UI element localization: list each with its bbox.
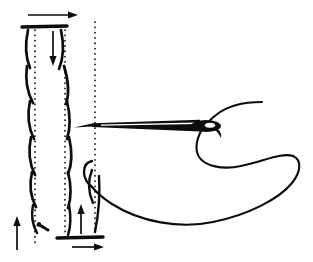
- fabric-bottom-edge: [57, 237, 103, 238]
- arrow-bottom-right-head: [94, 243, 104, 250]
- weave-stroke: [59, 30, 63, 69]
- arrow-bottom-up-head: [77, 204, 84, 214]
- needle-eye-barb: [214, 128, 221, 138]
- thread-loop-path: [92, 131, 299, 225]
- arrow-top-down: [49, 31, 56, 66]
- weave-stroke: [95, 176, 99, 232]
- stitch-diagram-figure: [0, 0, 313, 262]
- weave-stroke: [68, 205, 70, 235]
- weave-stroke: [68, 137, 72, 174]
- weave-stroke: [26, 30, 30, 68]
- needle-tip: [74, 124, 92, 128]
- arrow-top-right-head: [68, 11, 78, 18]
- fabric-guide-lines: [35, 22, 95, 246]
- arrow-bottom-up: [77, 204, 84, 234]
- fabric-top-edge-bar: [22, 26, 67, 27]
- thread-tail-dot: [37, 222, 41, 226]
- needle-eye-hole: [205, 123, 215, 128]
- thread-tail-hook: [37, 222, 48, 230]
- weave-stroke: [67, 101, 70, 139]
- fabric-top-edge: [22, 26, 67, 27]
- weave-stroke: [29, 137, 35, 175]
- arrow-bottom-left-up-head: [13, 216, 20, 226]
- thread-lower-loop: [92, 131, 299, 225]
- arrow-top-down-head: [49, 56, 56, 66]
- arrow-bottom-left-up: [13, 216, 20, 250]
- arrow-bottom-right: [72, 243, 104, 250]
- weave-stroke: [32, 205, 37, 233]
- weave-stroke: [26, 66, 33, 103]
- weave-stroke: [28, 101, 34, 139]
- needle-shaft: [92, 120, 200, 132]
- diagram-canvas: [0, 0, 313, 262]
- fabric-bottom-edge-bar: [57, 237, 103, 238]
- weave-column-center: [89, 170, 99, 232]
- weave-stroke: [68, 172, 71, 208]
- arrow-top-right: [28, 11, 78, 18]
